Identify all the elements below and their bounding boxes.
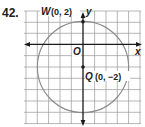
x-axis-label: x (134, 46, 141, 57)
point-q-name: Q (85, 71, 93, 82)
y-axis-down-arrow-icon (81, 120, 86, 126)
point-q-coords: (0, −2) (95, 72, 121, 82)
point-q (81, 65, 85, 69)
coordinate-graph: W (0, 2) y O x Q (0, −2) (0, 0, 145, 127)
y-axis-up-arrow-icon (81, 12, 86, 18)
x-axis-left-arrow-icon (24, 42, 30, 47)
origin-label: O (73, 46, 81, 57)
point-w (81, 20, 85, 24)
point-w-coords: (0, 2) (51, 7, 72, 17)
y-axis-label: y (85, 6, 92, 17)
